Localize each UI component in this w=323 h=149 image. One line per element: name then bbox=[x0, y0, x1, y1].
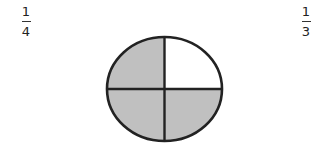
circle-divided-in-quarters bbox=[107, 37, 222, 141]
fraction-circle-diagram bbox=[0, 0, 323, 149]
